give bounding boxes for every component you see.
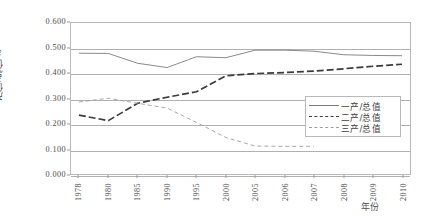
y-tick-label: 0.100 [46,146,66,154]
x-tick-mark [403,175,404,178]
x-tick-mark [225,175,226,178]
legend-swatch-solid-icon [309,105,339,106]
x-tick-mark [78,175,79,178]
chart-legend: 一产/总值 二产/总值 三产/总值 [305,96,401,137]
x-tick-label: 2007 [310,183,319,201]
x-tick-label: 1980 [103,183,112,201]
x-tick-label: 1978 [74,183,83,201]
x-tick-mark [166,175,167,178]
x-tick-label: 2006 [280,183,289,201]
x-tick-label: 2009 [369,183,378,201]
y-tick-label: 0.400 [46,69,66,77]
legend-swatch-dashed-icon [309,116,339,117]
y-tick-label: 0.600 [46,18,66,26]
x-tick-mark [137,175,138,178]
y-axis-ticks: 0.6000.5000.4000.3000.2000.1000.000 [0,22,70,175]
x-tick-mark [373,175,374,178]
x-tick-label: 1995 [192,183,201,201]
legend-swatch-fine-dashed-icon [309,127,339,128]
x-tick-mark [343,175,344,178]
x-axis-ticks: 1978198019851990199520002005200620072008… [70,175,411,223]
x-axis-title: 年份 [361,200,380,213]
y-tick-label: 0.500 [46,44,66,52]
x-tick-mark [255,175,256,178]
x-tick-mark [284,175,285,178]
x-tick-label: 2010 [399,183,408,201]
series-line-2 [79,98,314,146]
x-tick-label: 2000 [221,183,230,201]
x-tick-mark [314,175,315,178]
x-tick-mark [107,175,108,178]
series-line-0 [79,50,402,67]
legend-item-0: 一产/总值 [309,100,396,111]
chart-container: 产值/总值/% 0.6000.5000.4000.3000.2000.1000.… [0,0,428,223]
y-tick-label: 0.000 [46,171,66,179]
x-tick-label: 1985 [133,183,142,201]
legend-item-1: 二产/总值 [309,111,396,122]
legend-item-2: 三产/总值 [309,122,396,133]
x-tick-mark [196,175,197,178]
y-tick-label: 0.300 [46,95,66,103]
x-tick-label: 2005 [251,183,260,201]
y-tick-label: 0.200 [46,120,66,128]
legend-label: 三产/总值 [341,122,381,134]
x-tick-label: 1990 [162,183,171,201]
x-tick-label: 2008 [339,183,348,201]
